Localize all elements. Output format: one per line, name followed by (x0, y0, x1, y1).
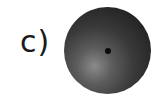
panel-label: c) (20, 24, 50, 60)
center-point (105, 48, 111, 54)
